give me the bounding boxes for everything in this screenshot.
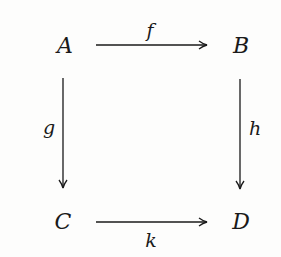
arrow-label-h: h [249, 119, 261, 138]
arrow-label-f: f [146, 21, 153, 40]
arrow-label-g: g [43, 118, 55, 137]
node-d: D [232, 211, 250, 233]
node-b: B [233, 35, 249, 57]
arrow-label-k: k [145, 231, 157, 250]
commutative-diagram: A B C D f g h k [0, 0, 281, 257]
node-a: A [57, 35, 73, 57]
node-c: C [55, 211, 72, 233]
